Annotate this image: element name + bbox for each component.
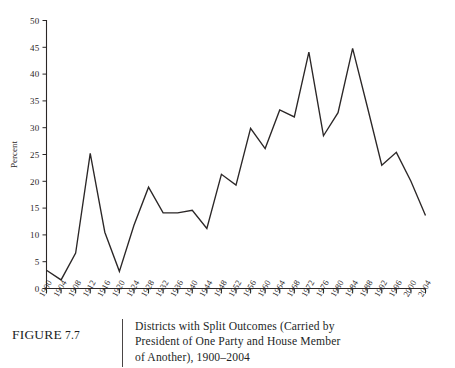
y-axis-title: Percent — [9, 141, 19, 168]
y-tick-label: 45 — [30, 43, 40, 53]
y-tick-label: 40 — [30, 69, 40, 79]
y-tick-label: 15 — [30, 203, 40, 213]
y-tick-label: 5 — [35, 257, 40, 267]
split-outcomes-line-chart: 05101520253035404550 1900190419081912191… — [0, 0, 455, 312]
figure-label-prefix: FIGURE — [12, 327, 62, 342]
figure-number: 7.7 — [65, 329, 80, 341]
caption-body: Districts with Split Outcomes (Carried b… — [123, 318, 455, 365]
x-axis: 1900190419081912191619201924192819321936… — [37, 278, 434, 299]
figure-caption: FIGURE 7.7 Districts with Split Outcomes… — [0, 318, 455, 368]
y-tick-label: 35 — [30, 96, 40, 106]
y-tick-label: 25 — [30, 150, 40, 160]
caption-line-3: of Another), 1900–2004 — [135, 350, 455, 365]
x-tick-label: 2004 — [416, 278, 434, 299]
chart-plot-area: 05101520253035404550 1900190419081912191… — [0, 0, 455, 312]
y-tick-label: 50 — [30, 16, 40, 26]
y-tick-label: 10 — [30, 230, 40, 240]
percent-line — [47, 48, 426, 280]
figure-container: 05101520253035404550 1900190419081912191… — [0, 0, 455, 368]
y-tick-label: 30 — [30, 123, 40, 133]
data-series-percent — [47, 48, 426, 280]
caption-line-2: President of One Party and House Member — [135, 334, 455, 349]
caption-line-1: Districts with Split Outcomes (Carried b… — [135, 319, 455, 334]
y-tick-label: 20 — [30, 177, 40, 187]
figure-number-label: FIGURE 7.7 — [0, 318, 122, 343]
y-axis: 05101520253035404550 — [30, 16, 46, 294]
